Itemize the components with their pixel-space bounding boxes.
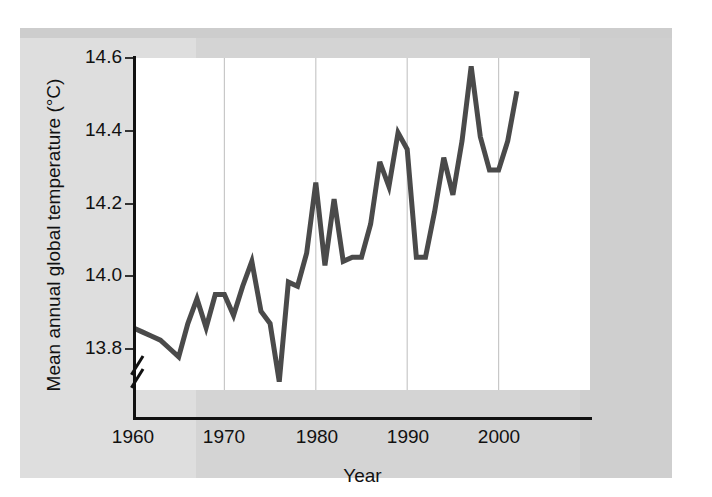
gridlines	[133, 58, 499, 390]
x-tick-label-3: 1990	[373, 426, 443, 448]
y-axis-title: Mean annual global temperature (°C)	[43, 55, 65, 415]
y-tick-14.2	[125, 203, 133, 205]
x-axis-title: Year	[133, 465, 592, 487]
line-chart-svg	[133, 58, 590, 390]
x-tick-label-4: 2000	[464, 426, 534, 448]
figure-panel: 14.6 14.4 14.2 14.0 13.8 Mean annual glo…	[20, 28, 672, 478]
axis-break-icon	[126, 360, 152, 390]
x-tick-label-0: 1960	[98, 426, 168, 448]
x-axis-line	[133, 417, 592, 420]
y-tick-14.0	[125, 275, 133, 277]
plot-area	[133, 58, 590, 390]
x-tick-label-1: 1970	[189, 426, 259, 448]
y-tick-14.6	[125, 57, 133, 59]
temperature-series-line	[133, 66, 517, 381]
y-tick-14.4	[125, 130, 133, 132]
y-tick-13.8	[125, 348, 133, 350]
scan-band-right	[580, 28, 672, 478]
x-tick-label-2: 1980	[282, 426, 352, 448]
